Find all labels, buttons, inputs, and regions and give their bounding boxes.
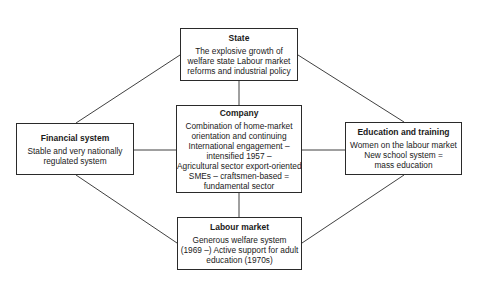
node-line: education (1970s) (178, 255, 301, 265)
node-title: Company (177, 108, 301, 119)
node-line: Agricultural sector export-oriented (177, 161, 301, 171)
node-line: intensified 1957 – (177, 151, 301, 161)
node-line: (1969 –) Active support for adult (178, 245, 301, 255)
node-title: Education and training (346, 127, 461, 138)
node-title: State (181, 33, 297, 44)
edge-education-labour (302, 175, 404, 243)
edge-financial-labour (76, 175, 177, 243)
node-line: International engagement – (177, 141, 301, 151)
node-state: State The explosive growth of welfare st… (180, 28, 298, 81)
node-line: orientation and continuing (177, 131, 301, 141)
node-financial-system: Financial system Stable and very nationa… (16, 123, 134, 175)
node-line: Women on the labour market (346, 140, 461, 150)
node-body: Generous welfare system (1969 –) Active … (178, 235, 301, 265)
node-line: Generous welfare system (178, 235, 301, 245)
node-line: Stable and very nationally (17, 146, 133, 156)
node-line: mass education (346, 160, 461, 170)
node-title: Labour market (178, 222, 301, 233)
node-body: Stable and very nationally regulated sys… (17, 146, 133, 166)
node-line: The explosive growth of (181, 46, 297, 56)
node-line: regulated system (17, 156, 133, 166)
node-line: fundamental sector (177, 181, 301, 191)
node-line: welfare state Labour market (181, 56, 297, 66)
node-education-training: Education and training Women on the labo… (345, 122, 462, 175)
edge-financial-state (76, 55, 180, 123)
node-company: Company Combination of home-market orien… (176, 105, 302, 193)
edge-state-education (298, 55, 404, 122)
node-body: Combination of home-market orientation a… (177, 121, 301, 191)
node-line: SMEs – craftsmen-based = (177, 171, 301, 181)
node-labour-market: Labour market Generous welfare system (1… (177, 217, 302, 270)
node-body: The explosive growth of welfare state La… (181, 46, 297, 76)
node-line: New school system = (346, 150, 461, 160)
node-body: Women on the labour market New school sy… (346, 140, 461, 170)
node-line: reforms and industrial policy (181, 66, 297, 76)
node-title: Financial system (17, 133, 133, 144)
node-line: Combination of home-market (177, 121, 301, 131)
